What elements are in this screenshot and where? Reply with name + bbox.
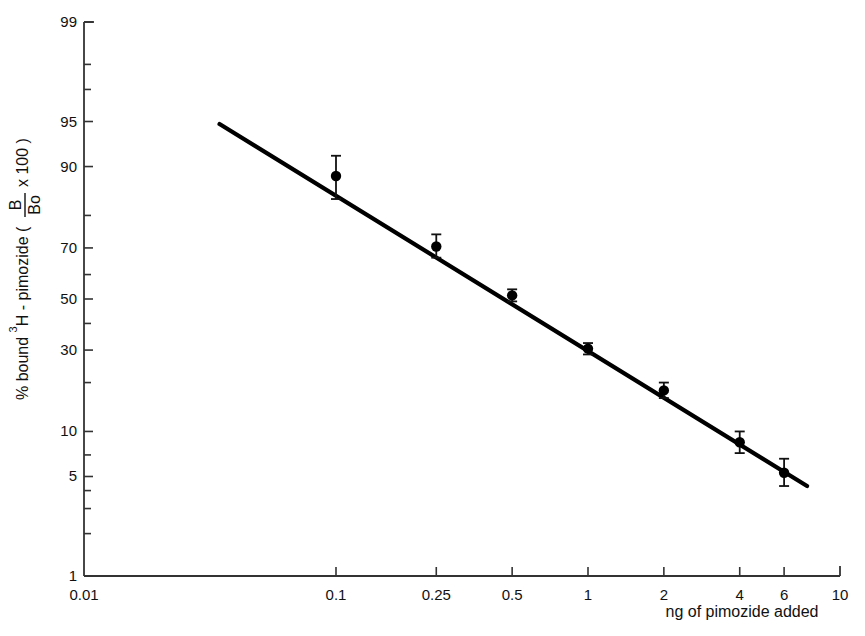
axes-group [84, 22, 840, 576]
x-axis-title: ng of pimozide added [666, 603, 819, 620]
y-axis-tick-label: 90 [60, 158, 77, 175]
data-point [735, 437, 745, 447]
fraction-b-over-bo: BBo [7, 193, 43, 217]
y-axis-tick-label: 99 [60, 13, 77, 30]
x-axis-tick-label: 1 [584, 586, 592, 603]
y-axis-tick-label: 10 [60, 422, 77, 439]
fit-line-group [220, 124, 808, 486]
fraction-denominator: Bo [26, 195, 43, 215]
y-axis-tick-label: 70 [60, 239, 77, 256]
data-point [779, 468, 789, 478]
x-axis-tick-label: 4 [736, 586, 744, 603]
data-point [331, 171, 341, 181]
y-axis-tick-label: 1 [69, 567, 77, 584]
data-point [431, 241, 441, 251]
chart-canvas: 99959070503010510.010.10.250.5124610 ng … [0, 0, 865, 636]
axis-titles-group: ng of pimozide added% bound 3H - pimozid… [7, 138, 819, 620]
x-axis-tick-label: 0.5 [502, 586, 523, 603]
x-axis-tick-label: 10 [832, 586, 849, 603]
y-axis-title-tail: x 100 ) [14, 138, 31, 187]
tick-labels-group: 99959070503010510.010.10.250.5124610 [60, 13, 848, 603]
x-axis-tick-label: 6 [780, 586, 788, 603]
y-axis-tick-label: 50 [60, 290, 77, 307]
x-axis-tick-label: 0.01 [69, 586, 98, 603]
y-axis-tick-label: 95 [60, 113, 77, 130]
y-axis-title-text: % bound 3H - pimozide ( [7, 226, 31, 400]
figure-container: 99959070503010510.010.10.250.5124610 ng … [0, 0, 865, 636]
ticks-group [84, 22, 784, 576]
y-axis-tick-label: 5 [69, 467, 77, 484]
x-axis-tick-label: 0.1 [326, 586, 347, 603]
regression-line [220, 124, 808, 486]
fraction-numerator: B [7, 200, 24, 211]
x-axis-tick-label: 2 [660, 586, 668, 603]
x-axis-tick-label: 0.25 [422, 586, 451, 603]
data-point [583, 343, 593, 353]
error-bars-group [331, 156, 789, 486]
data-point [659, 385, 669, 395]
y-axis-tick-label: 30 [60, 341, 77, 358]
data-point [507, 290, 517, 300]
y-axis-title: % bound 3H - pimozide ( BBox 100 ) [7, 138, 43, 400]
